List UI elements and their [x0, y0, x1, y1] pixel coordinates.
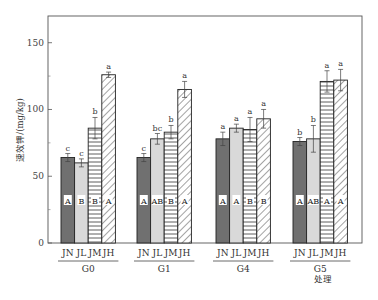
- category-label: JM: [164, 248, 178, 258]
- significance-lower: a: [261, 99, 266, 108]
- bar-g5-jn: [293, 142, 307, 243]
- category-label: JH: [334, 248, 347, 258]
- category-label: JH: [257, 248, 270, 258]
- bar-g5-jh: [334, 80, 348, 243]
- significance-lower: b: [311, 115, 316, 124]
- significance-lower: b: [92, 107, 97, 116]
- bar-group-g4: aAaAaBaB: [216, 99, 270, 243]
- x-axis: JNJLJMJHG0JNJLJMJHG1JNJLJMJHG4JNJLJMJHG5: [58, 248, 350, 274]
- x-axis-title: 处理: [314, 274, 332, 284]
- significance-upper: AB: [307, 197, 320, 206]
- bar-g1-jm: [164, 132, 178, 243]
- significance-upper: B: [261, 197, 267, 206]
- bar-g4-jh: [257, 119, 271, 243]
- bar-g0-jm: [88, 128, 102, 243]
- significance-upper: A: [233, 197, 240, 206]
- significance-lower: a: [234, 114, 239, 123]
- bar-chart: 050100150 cAcBbBaAcAbcABbBaAaAaAaBaBbAbA…: [0, 0, 378, 300]
- bar-group-g0: cAcBbBaA: [61, 62, 115, 243]
- bar-group-g5: bAbABaAaA: [293, 59, 347, 243]
- significance-upper: A: [64, 197, 71, 206]
- category-label: JN: [293, 248, 306, 258]
- significance-lower: c: [142, 144, 147, 153]
- category-label: JN: [61, 248, 74, 258]
- significance-lower: b: [297, 128, 302, 137]
- bar-g1-jh: [178, 89, 192, 243]
- bar-groups: cAcBbBaAcAbcABbBaAaAaAaBaBbAbABaAaA: [61, 59, 347, 243]
- bar-g5-jm: [320, 81, 334, 243]
- significance-lower: a: [248, 107, 253, 116]
- y-tick-label: 150: [27, 38, 44, 48]
- significance-lower: a: [338, 59, 343, 68]
- category-label: JL: [76, 248, 87, 258]
- group-label: G0: [82, 264, 95, 274]
- significance-upper: B: [168, 197, 174, 206]
- category-label: JH: [178, 248, 191, 258]
- bar-g5-jl: [307, 139, 321, 243]
- category-label: JN: [137, 248, 150, 258]
- y-tick-label: 50: [33, 171, 45, 181]
- category-label: JM: [243, 248, 257, 258]
- bar-g4-jl: [230, 128, 244, 243]
- significance-lower: a: [220, 122, 225, 131]
- significance-upper: A: [181, 197, 188, 206]
- significance-lower: c: [79, 149, 84, 158]
- significance-upper: A: [337, 197, 344, 206]
- significance-lower: a: [106, 62, 111, 71]
- bar-group-g1: cAbcABbBaA: [137, 71, 191, 243]
- significance-upper: A: [105, 197, 112, 206]
- category-label: JM: [88, 248, 102, 258]
- significance-lower: a: [182, 71, 187, 80]
- y-tick-label: 100: [27, 104, 44, 114]
- bar-g1-jl: [151, 139, 165, 243]
- significance-upper: B: [78, 197, 84, 206]
- group-label: G4: [237, 264, 250, 274]
- group-label: G5: [314, 264, 327, 274]
- bar-g4-jn: [216, 139, 230, 243]
- significance-upper: A: [323, 197, 330, 206]
- y-tick-label: 0: [38, 238, 44, 248]
- bar-g4-jm: [243, 130, 257, 244]
- y-axis-title: 速效钾/(mg/kg): [15, 98, 25, 161]
- group-label: G1: [158, 264, 171, 274]
- significance-upper: A: [296, 197, 303, 206]
- significance-upper: AB: [151, 197, 164, 206]
- category-label: JM: [320, 248, 334, 258]
- category-label: JN: [216, 248, 229, 258]
- significance-lower: a: [325, 61, 330, 70]
- significance-upper: B: [247, 197, 253, 206]
- category-label: JL: [231, 248, 242, 258]
- significance-upper: A: [140, 197, 147, 206]
- significance-upper: B: [92, 197, 98, 206]
- significance-lower: c: [66, 144, 71, 153]
- category-label: JH: [102, 248, 115, 258]
- significance-upper: A: [219, 197, 226, 206]
- category-label: JL: [308, 248, 319, 258]
- bar-g0-jh: [102, 75, 116, 243]
- category-label: JL: [152, 248, 163, 258]
- significance-lower: b: [168, 115, 173, 124]
- significance-lower: bc: [153, 124, 163, 133]
